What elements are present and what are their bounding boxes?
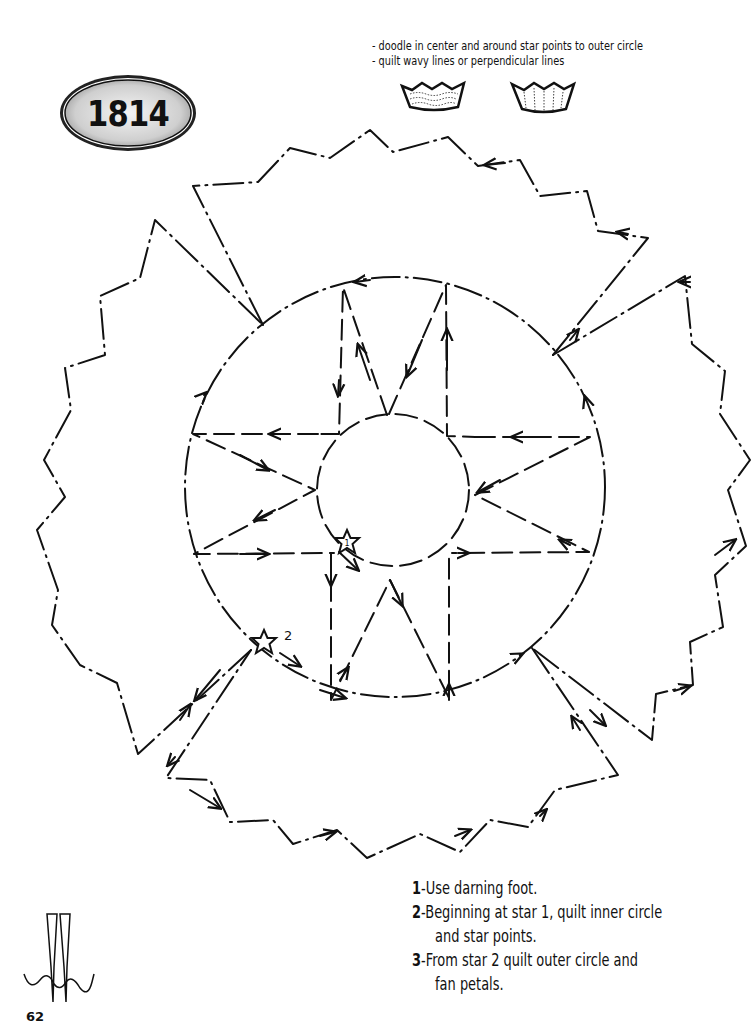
svg-text:2: 2 <box>284 628 292 643</box>
instruction-continuation: and star points. <box>412 924 662 948</box>
instruction-step: 1-Use darning foot. <box>412 876 662 900</box>
quilting-diagram: 1 2 <box>0 0 752 880</box>
instruction-step: 3-From star 2 quilt outer circle and <box>412 948 662 972</box>
petal-right <box>532 276 750 740</box>
fan-petals <box>37 130 750 858</box>
star-2-marker: 2 <box>252 628 292 653</box>
petal-bottom <box>166 648 618 858</box>
petal-top <box>193 130 648 355</box>
instruction-continuation: fan petals. <box>412 972 662 996</box>
instruction-step: 2-Beginning at star 1, quilt inner circl… <box>412 900 662 924</box>
page-number: 62 <box>26 1009 44 1024</box>
svg-text:1: 1 <box>344 539 349 548</box>
petal-left <box>37 220 263 754</box>
sewing-needle-icon <box>22 912 122 1012</box>
instructions: 1-Use darning foot. 2-Beginning at star … <box>412 876 662 996</box>
petal-arrows <box>168 163 735 836</box>
outer-circle <box>185 277 605 697</box>
